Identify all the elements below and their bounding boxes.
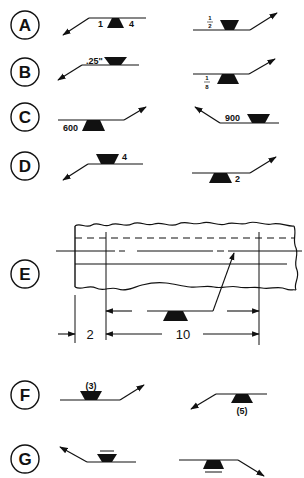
svg-text:4: 4 (129, 19, 134, 29)
weld-symbol-a-left: 1 4 (63, 18, 146, 35)
svg-text:1: 1 (98, 19, 103, 29)
spot-weld-symbol-icon (220, 20, 239, 30)
row-label-f: F (20, 386, 30, 405)
svg-text:1: 1 (205, 75, 209, 81)
dimension-offset: 2 (86, 327, 93, 342)
spot-weld-symbol-icon (247, 114, 270, 123)
spot-weld-symbol-icon (96, 154, 119, 164)
svg-text:1: 1 (208, 15, 212, 21)
weld-symbol-f-right: (5) (191, 394, 267, 416)
spot-weld-flush-symbol-icon (97, 454, 117, 462)
row-label-d: D (19, 157, 31, 176)
svg-text:900: 900 (225, 113, 240, 123)
weld-symbol-c-left: 600 (58, 107, 146, 133)
row-label-a: A (19, 16, 31, 35)
row-label-c: C (19, 108, 31, 127)
weld-symbol-a-right: 1 2 (193, 13, 277, 30)
spot-weld-symbol-icon (231, 394, 253, 403)
spot-weld-flush-symbol-icon (203, 460, 224, 469)
dimension-length: 10 (176, 327, 190, 342)
svg-text:(3): (3) (86, 381, 97, 391)
row-label-e: E (19, 265, 30, 284)
spot-weld-symbol-icon (80, 391, 102, 400)
spot-weld-symbol-icon (217, 74, 239, 84)
weld-symbol-c-right: 900 (195, 107, 279, 123)
weld-symbol-b-left: .25" (58, 56, 139, 80)
weld-symbol-d-right: 2 (192, 157, 276, 184)
svg-text:.25": .25" (86, 56, 103, 66)
svg-text:8: 8 (205, 84, 209, 90)
svg-text:(5): (5) (237, 406, 248, 416)
spot-weld-symbol-icon (107, 18, 124, 28)
row-label-b: B (19, 63, 31, 82)
svg-text:2: 2 (208, 23, 212, 29)
svg-text:4: 4 (122, 152, 127, 162)
svg-text:2: 2 (235, 174, 240, 184)
row-label-g: G (18, 450, 31, 469)
spot-weld-symbol-icon (82, 120, 105, 131)
weld-symbol-b-right: 1 8 (193, 59, 275, 90)
weld-symbol-g-right (179, 460, 264, 476)
weld-symbols-diagram: A B C D E F G 1 4 1 2 .25" 1 8 6 (0, 0, 304, 478)
spot-weld-symbol-icon (104, 57, 127, 65)
seam-weld-symbol-icon (163, 311, 188, 321)
weld-symbol-f-left: (3) (60, 381, 144, 400)
spot-weld-symbol-icon (209, 173, 232, 183)
weld-symbol-g-left (60, 447, 136, 462)
weld-symbol-d-left: 4 (63, 152, 143, 180)
svg-text:600: 600 (63, 123, 78, 133)
